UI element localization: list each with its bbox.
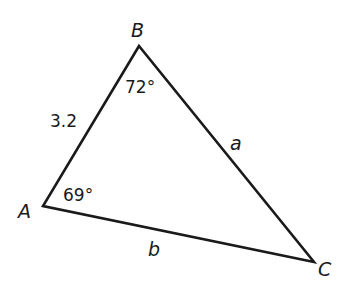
vertex-label-a: A (16, 200, 31, 222)
vertex-label-b: B (131, 19, 144, 41)
vertex-label-c: C (318, 258, 332, 280)
triangle-diagram: B A C 72° 69° 3.2 a b (0, 0, 342, 281)
angle-label-b: 72° (125, 77, 155, 97)
side-label-ab: 3.2 (50, 111, 77, 131)
triangle-abc (43, 46, 314, 262)
angle-label-a: 69° (63, 185, 93, 205)
side-label-bc: a (230, 132, 242, 154)
side-label-ac: b (148, 238, 160, 260)
